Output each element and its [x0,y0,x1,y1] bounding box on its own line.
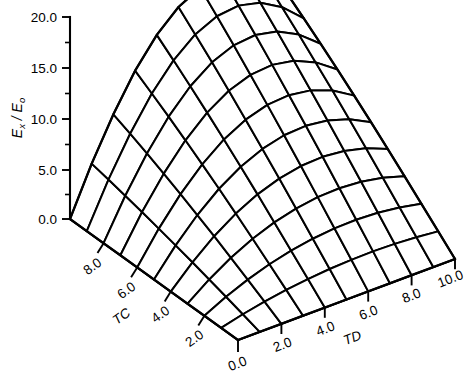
td-axis-title: TD [341,327,363,348]
td-tick-label-6: 6.0 [357,302,380,323]
tc-axis-title: TC [110,305,134,328]
z-axis: 20.0 15.0 10.0 5.0 0.0 Ex / Eo [9,10,70,227]
tc-tick-label-2: 2.0 [182,327,206,350]
svg-text:Ex / Eo: Ex / Eo [9,98,27,138]
z-tick-label-20: 20.0 [31,10,57,25]
tc-tick-label-4: 4.0 [148,303,172,326]
z-axis-title-sub-o: o [16,98,27,103]
z-axis-ticks [62,17,70,219]
tc-tick-label-6: 6.0 [114,279,138,302]
td-tick-label-4: 4.0 [314,318,337,339]
z-tick-label-0: 0.0 [38,212,57,227]
z-axis-title-slash: / [9,112,25,124]
surface-plot-canvas: 20.0 15.0 10.0 5.0 0.0 Ex / Eo 8.0 [0,0,466,382]
td-tick-label-8: 8.0 [400,285,423,306]
td-tick-label-0: 0.0 [226,353,249,374]
td-tick-label-2: 2.0 [271,334,294,355]
z-tick-label-10: 10.0 [31,112,57,127]
z-axis-title: Ex / Eo [9,98,27,138]
z-tick-label-15: 15.0 [31,61,57,76]
td-tick-label-10: 10.0 [435,267,465,290]
figure-root: 20.0 15.0 10.0 5.0 0.0 Ex / Eo 8.0 [0,0,466,382]
tc-tick-label-8: 8.0 [80,255,104,278]
z-tick-label-5: 5.0 [38,163,57,178]
